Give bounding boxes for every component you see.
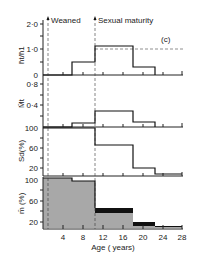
ylabel-sd: Sd(%) [17,139,26,162]
ytick-2-0: 2·0 [26,20,38,29]
ytick-20: 20 [29,218,38,227]
ytick-100: 100 [25,176,39,185]
panel-label: (c) [161,35,171,44]
ytick-0: 0 [34,71,39,80]
xtick-24: 24 [159,233,168,242]
xtick-20: 20 [139,233,148,242]
ylabel-ht-h1: h̄t/h̄1 [17,46,26,64]
panel-m-bar: 100 60 20 m̄ (%) [17,176,183,229]
ht-h1-steps [43,46,155,75]
x-axis-label: Age ( years) [91,243,135,252]
mt-steps [43,111,155,127]
maturity-label: Sexual maturity [98,16,153,25]
xtick-4: 4 [61,233,66,242]
ytick-20: 20 [29,164,38,173]
maturity-arrow-icon [94,16,97,20]
xtick-16: 16 [119,233,128,242]
ylabel-m-bar: m̄ (%) [17,192,26,214]
xtick-12: 12 [99,233,108,242]
age-structure-chart: 2·0 1·0 0 h̄t/h̄1 (c) 0·8 0·4 M̄t [0,0,199,269]
ytick-100: 100 [25,124,39,133]
ylabel-mt: M̄t [17,98,26,108]
x-axis: 4 8 12 16 20 24 28 Age ( years) [61,233,187,252]
weaned-label: Weaned [51,16,81,25]
ytick-0-4: 0·4 [26,101,38,110]
xtick-28: 28 [178,233,187,242]
weaned-arrow-icon [47,16,50,20]
ytick-1-0: 1·0 [26,45,38,54]
grey-area [43,178,182,228]
panel-ht-h1: 2·0 1·0 0 h̄t/h̄1 (c) [17,20,183,80]
ytick-60: 60 [29,197,38,206]
sd-steps [43,128,182,174]
ytick-0-8: 0·8 [26,80,38,89]
panel-sd: 100 60 20 Sd(%) [17,124,183,176]
ytick-60: 60 [29,144,38,153]
xtick-8: 8 [81,233,86,242]
panel-mt: 0·8 0·4 M̄t [17,75,183,127]
